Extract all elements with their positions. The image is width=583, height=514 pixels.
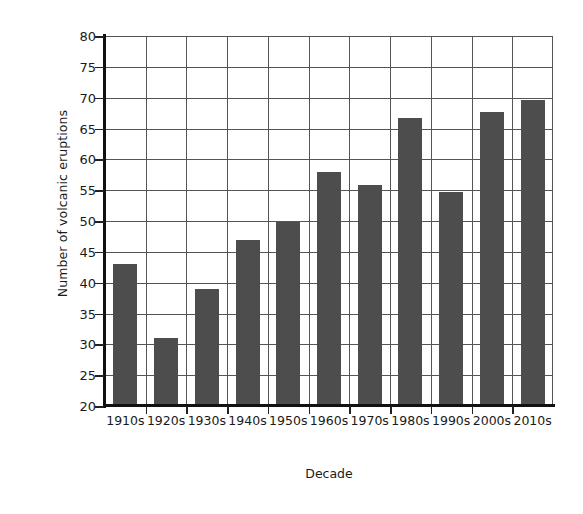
gridline-vertical xyxy=(309,36,310,406)
y-tick-label: 80 xyxy=(79,29,96,44)
bar-2010s xyxy=(521,100,545,406)
gridline-vertical xyxy=(431,36,432,406)
bar-chart: Number of volcanic eruptions 20253035404… xyxy=(0,0,583,514)
bar-2000s xyxy=(480,112,504,406)
gridline-vertical xyxy=(227,36,228,406)
y-tick-mark xyxy=(95,98,104,100)
bar-1910s xyxy=(113,264,137,406)
x-tick-mark xyxy=(309,406,311,414)
y-tick-mark xyxy=(95,159,104,161)
gridline-horizontal xyxy=(105,98,553,99)
x-tick-mark xyxy=(146,406,148,414)
y-tick-mark xyxy=(95,36,104,38)
x-tick-mark xyxy=(390,406,392,414)
bar-1930s xyxy=(195,289,219,406)
y-tick-mark xyxy=(95,129,104,131)
y-tick-mark xyxy=(95,406,104,408)
plot-area xyxy=(105,36,553,406)
y-tick-mark xyxy=(95,283,104,285)
y-tick-label: 30 xyxy=(79,337,96,352)
y-axis-tick-labels: 20253035404550556065707580 xyxy=(60,0,96,514)
bar-1990s xyxy=(439,192,463,406)
x-axis-title: Decade xyxy=(105,466,553,481)
y-tick-label: 60 xyxy=(79,152,96,167)
gridline-vertical xyxy=(472,36,473,406)
bar-1980s xyxy=(398,118,422,406)
bar-1920s xyxy=(154,338,178,406)
y-tick-mark xyxy=(95,252,104,254)
y-tick-label: 20 xyxy=(79,399,96,414)
y-tick-label: 35 xyxy=(79,306,96,321)
x-tick-label: 2010s xyxy=(503,413,563,428)
y-tick-mark xyxy=(95,67,104,69)
y-tick-label: 45 xyxy=(79,244,96,259)
gridline-vertical xyxy=(268,36,269,406)
y-tick-label: 40 xyxy=(79,275,96,290)
bar-1970s xyxy=(358,185,382,406)
gridline-vertical xyxy=(512,36,513,406)
y-tick-mark xyxy=(95,314,104,316)
y-tick-mark xyxy=(95,375,104,377)
x-axis-line xyxy=(103,404,555,407)
y-tick-mark xyxy=(95,344,104,346)
x-tick-mark xyxy=(472,406,474,414)
x-tick-mark xyxy=(512,406,514,414)
gridline-vertical xyxy=(186,36,187,406)
bar-1950s xyxy=(276,222,300,406)
gridline-vertical xyxy=(390,36,391,406)
y-tick-label: 75 xyxy=(79,59,96,74)
plot-frame-top xyxy=(105,36,553,37)
y-tick-label: 50 xyxy=(79,214,96,229)
bar-1960s xyxy=(317,172,341,406)
y-tick-label: 70 xyxy=(79,90,96,105)
gridline-vertical xyxy=(146,36,147,406)
y-tick-label: 25 xyxy=(79,368,96,383)
x-tick-mark xyxy=(186,406,188,414)
gridline-vertical xyxy=(349,36,350,406)
x-tick-mark xyxy=(431,406,433,414)
x-tick-mark xyxy=(349,406,351,414)
bar-1940s xyxy=(236,240,260,407)
x-tick-mark xyxy=(227,406,229,414)
gridline-horizontal xyxy=(105,67,553,68)
y-tick-label: 65 xyxy=(79,121,96,136)
y-tick-mark xyxy=(95,221,104,223)
y-tick-label: 55 xyxy=(79,183,96,198)
x-tick-mark xyxy=(268,406,270,414)
y-tick-mark xyxy=(95,190,104,192)
